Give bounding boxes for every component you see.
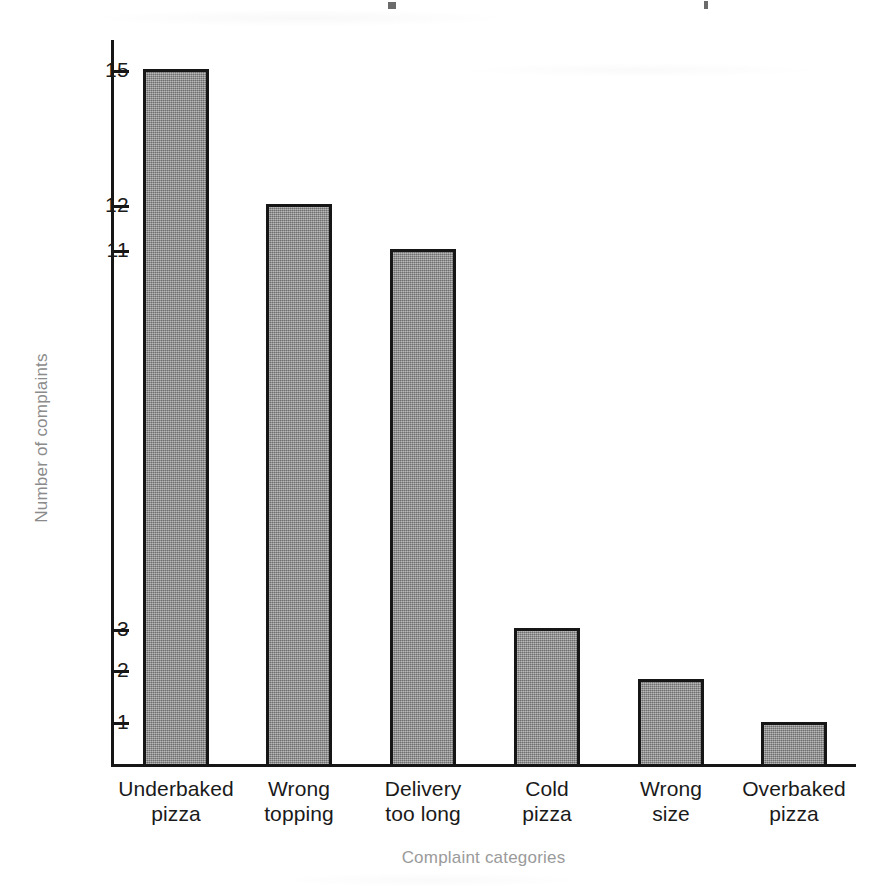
category-label-wrong-size: Wrong size — [606, 776, 736, 826]
y-tick-mark — [114, 250, 129, 253]
category-label-delivery-too-long: Delivery too long — [358, 776, 488, 826]
y-tick-3: 3 — [0, 629, 129, 632]
scan-speck — [704, 1, 708, 9]
category-label-line2: pizza — [729, 801, 859, 826]
category-label-line1: Wrong — [234, 776, 364, 801]
bar-chart-figure: 15 12 11 3 2 1 Underbaked pizza Wrong to… — [0, 0, 890, 895]
bar-wrong-size — [638, 679, 704, 767]
y-tick-1: 1 — [0, 722, 129, 725]
y-tick-mark — [114, 670, 129, 673]
category-label-line1: Wrong — [606, 776, 736, 801]
bar-underbaked-pizza — [143, 69, 209, 767]
category-label-cold-pizza: Cold pizza — [482, 776, 612, 826]
category-label-line1: Overbaked — [729, 776, 859, 801]
y-tick-2: 2 — [0, 670, 129, 673]
bar-cold-pizza — [514, 628, 580, 767]
category-label-line2: size — [606, 801, 736, 826]
scan-speck — [388, 2, 396, 9]
category-label-line1: Underbaked — [111, 776, 241, 801]
category-label-wrong-topping: Wrong topping — [234, 776, 364, 826]
bar-delivery-too-long — [390, 249, 456, 767]
category-label-line1: Cold — [482, 776, 612, 801]
category-label-underbaked-pizza: Underbaked pizza — [111, 776, 241, 826]
y-axis-line — [111, 40, 114, 767]
category-label-line2: pizza — [482, 801, 612, 826]
y-tick-mark — [114, 205, 129, 208]
category-label-overbaked-pizza: Overbaked pizza — [729, 776, 859, 826]
x-axis-line — [111, 764, 856, 767]
category-label-line2: pizza — [111, 801, 241, 826]
bar-overbaked-pizza — [761, 722, 827, 767]
y-tick-mark — [114, 722, 129, 725]
y-tick-11: 11 — [0, 250, 129, 253]
y-axis-title: Number of complaints — [32, 308, 52, 568]
bar-wrong-topping — [266, 204, 332, 767]
category-label-line2: topping — [234, 801, 364, 826]
category-label-line2: too long — [358, 801, 488, 826]
y-tick-12: 12 — [0, 205, 129, 208]
category-label-line1: Delivery — [358, 776, 488, 801]
y-tick-mark — [114, 70, 129, 73]
y-tick-mark — [114, 629, 129, 632]
x-axis-title: Complaint categories — [111, 848, 856, 868]
y-tick-15: 15 — [0, 70, 129, 73]
